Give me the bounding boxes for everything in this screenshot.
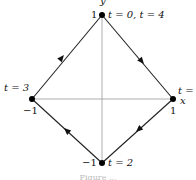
bottom-coord-label: −1 <box>82 158 97 168</box>
left-time-label: t = 3 <box>4 83 29 93</box>
bottom-time-label: t = 2 <box>108 158 133 168</box>
y-axis-label: y <box>100 0 106 6</box>
left-coord-label: −1 <box>23 106 38 116</box>
x-axis-label: x <box>180 96 186 106</box>
right-coord-label: 1 <box>170 106 176 116</box>
top-coord-label: 1 <box>91 10 97 20</box>
vertex-right <box>170 96 176 102</box>
diamond-diagram <box>0 0 196 180</box>
vertex-bottom <box>99 160 105 166</box>
top-time-label: t = 0, t = 4 <box>108 10 165 20</box>
vertex-left <box>29 96 35 102</box>
arrow-left-top-icon <box>57 53 66 62</box>
figure-caption: Figure ... <box>0 173 196 180</box>
diamond-path <box>32 15 173 163</box>
vertex-top <box>99 12 105 18</box>
